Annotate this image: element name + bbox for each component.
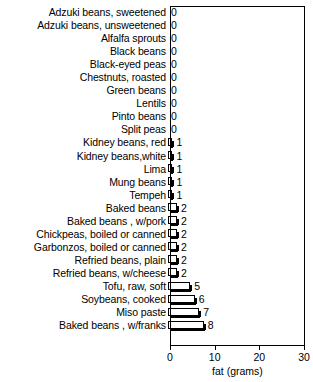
data-bar: [168, 308, 199, 316]
chart-row: Lentils0: [0, 97, 313, 110]
x-axis-line: [170, 345, 305, 346]
bar-cell: 0: [168, 19, 313, 32]
bar-value-label: 0: [171, 85, 177, 96]
x-tick-label: 0: [155, 351, 185, 363]
bar-value-label: 0: [171, 46, 177, 57]
bar-cell: 0: [168, 58, 313, 71]
category-label: Pinto beans: [0, 111, 168, 122]
bar-value-label: 0: [171, 124, 177, 135]
data-bar: [168, 282, 190, 290]
bar-value-label: 1: [176, 137, 182, 148]
bar-cell: 0: [168, 45, 313, 58]
x-tick-label: 30: [289, 351, 313, 363]
category-label: Adzuki beans, sweetened: [0, 7, 168, 18]
chart-rows: Adzuki beans, sweetened0Adzuki beans, un…: [0, 6, 313, 332]
category-label: Baked beans , w/pork: [0, 216, 168, 227]
chart-row: Kidney beans, red1: [0, 136, 313, 149]
bar-value-label: 1: [176, 151, 182, 162]
chart-row: Split peas0: [0, 123, 313, 136]
category-label: Split peas: [0, 124, 168, 135]
bar-cell: 2: [168, 228, 313, 241]
category-label: Baked beans , w/franks: [0, 320, 168, 331]
bar-cell: 2: [168, 254, 313, 267]
data-bar: [168, 295, 195, 303]
chart-row: Baked beans2: [0, 202, 313, 215]
bar-value-label: 8: [208, 320, 214, 331]
chart-row: Lima1: [0, 163, 313, 176]
chart-row: Black-eyed peas0: [0, 58, 313, 71]
bar-value-label: 0: [171, 98, 177, 109]
bar-value-label: 2: [181, 229, 187, 240]
category-label: Miso paste: [0, 307, 168, 318]
bar-value-label: 1: [176, 190, 182, 201]
chart-row: Green beans0: [0, 84, 313, 97]
bar-value-label: 0: [171, 20, 177, 31]
chart-row: Soybeans, cooked6: [0, 293, 313, 306]
bar-value-label: 2: [181, 242, 187, 253]
x-axis-label: fat (grams): [170, 365, 305, 377]
category-label: Lentils: [0, 98, 168, 109]
bar-value-label: 6: [199, 294, 205, 305]
chart-row: Baked beans , w/franks8: [0, 319, 313, 332]
category-label: Black-eyed peas: [0, 59, 168, 70]
category-label: Chestnuts, roasted: [0, 72, 168, 83]
chart-row: Tempeh1: [0, 189, 313, 202]
category-label: Adzuki beans, unsweetened: [0, 20, 168, 31]
chart-row: Alfalfa sprouts0: [0, 32, 313, 45]
category-label: Tofu, raw, soft: [0, 281, 168, 292]
bar-value-label: 1: [176, 164, 182, 175]
fat-content-bar-chart: Adzuki beans, sweetened0Adzuki beans, un…: [0, 0, 313, 382]
category-label: Garbonzos, boiled or canned: [0, 242, 168, 253]
category-label: Tempeh: [0, 190, 168, 201]
chart-row: Miso paste7: [0, 306, 313, 319]
x-tick: [170, 345, 171, 350]
x-tick-label: 10: [200, 351, 230, 363]
bar-value-label: 0: [171, 7, 177, 18]
bar-value-label: 5: [194, 281, 200, 292]
category-label: Mung beans: [0, 177, 168, 188]
bar-cell: 5: [168, 280, 313, 293]
chart-row: Chestnuts, roasted0: [0, 71, 313, 84]
bar-cell: 1: [168, 150, 313, 163]
data-bar: [168, 321, 204, 329]
bar-cell: 2: [168, 267, 313, 280]
bar-value-label: 0: [171, 59, 177, 70]
bar-cell: 2: [168, 241, 313, 254]
category-label: Chickpeas, boiled or canned: [0, 229, 168, 240]
category-label: Refried beans, w/cheese: [0, 268, 168, 279]
category-label: Alfalfa sprouts: [0, 33, 168, 44]
chart-row: Kidney beans,white1: [0, 150, 313, 163]
bar-cell: 2: [168, 202, 313, 215]
bar-cell: 0: [168, 123, 313, 136]
bar-cell: 2: [168, 215, 313, 228]
bar-value-label: 0: [171, 33, 177, 44]
bar-value-label: 0: [171, 111, 177, 122]
x-tick: [215, 345, 216, 350]
chart-row: Pinto beans0: [0, 110, 313, 123]
bar-value-label: 0: [171, 72, 177, 83]
plot-frame-top: [170, 6, 305, 7]
x-tick: [259, 345, 260, 350]
bar-value-label: 7: [203, 307, 209, 318]
category-label: Black beans: [0, 46, 168, 57]
category-label: Refried beans, plain: [0, 255, 168, 266]
bar-cell: 0: [168, 110, 313, 123]
chart-row: Tofu, raw, soft5: [0, 280, 313, 293]
chart-row: Refried beans, plain2: [0, 254, 313, 267]
bar-cell: 0: [168, 97, 313, 110]
bar-cell: 1: [168, 189, 313, 202]
bar-cell: 1: [168, 136, 313, 149]
chart-row: Baked beans , w/pork2: [0, 215, 313, 228]
chart-row: Refried beans, w/cheese2: [0, 267, 313, 280]
chart-row: Garbonzos, boiled or canned2: [0, 241, 313, 254]
chart-row: Mung beans1: [0, 176, 313, 189]
bar-value-label: 1: [176, 177, 182, 188]
category-label: Soybeans, cooked: [0, 294, 168, 305]
chart-row: Chickpeas, boiled or canned2: [0, 228, 313, 241]
chart-row: Adzuki beans, unsweetened0: [0, 19, 313, 32]
bar-cell: 1: [168, 176, 313, 189]
x-tick-label: 20: [244, 351, 274, 363]
bar-cell: 0: [168, 6, 313, 19]
bar-cell: 6: [168, 293, 313, 306]
y-axis-line: [170, 6, 171, 345]
